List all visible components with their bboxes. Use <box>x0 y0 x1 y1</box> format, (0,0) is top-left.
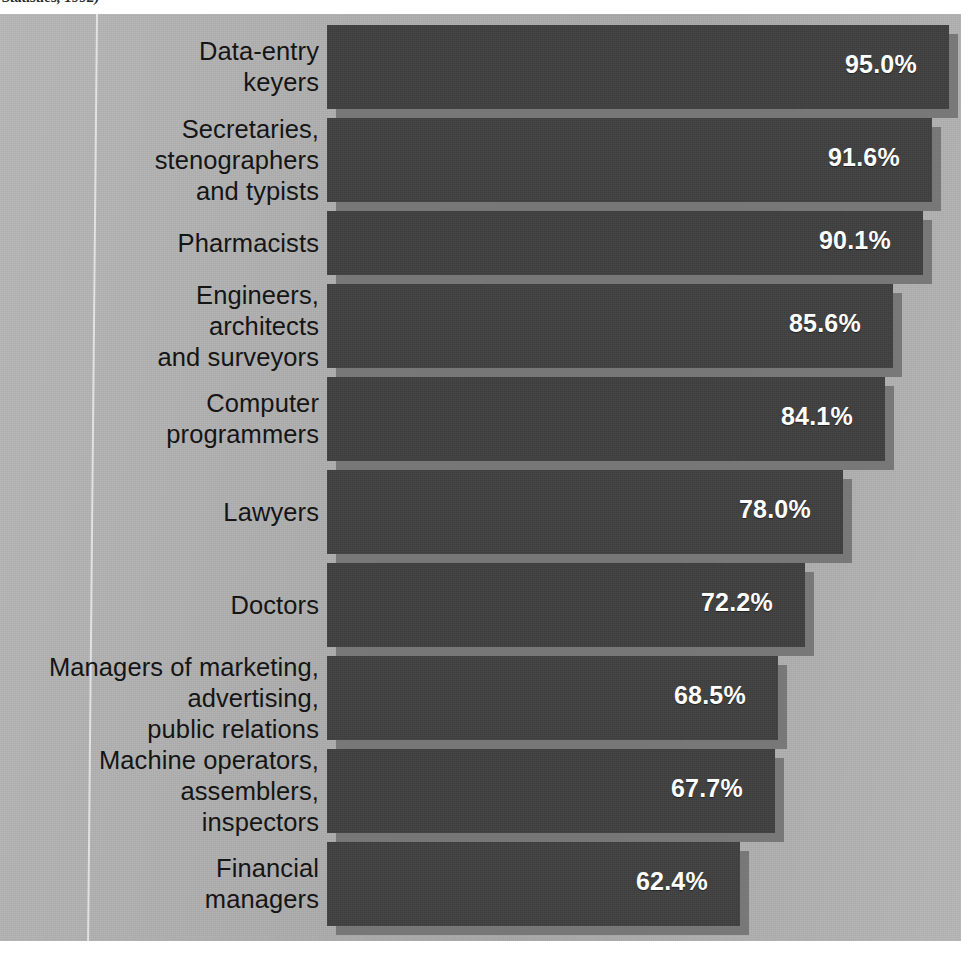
bar-value-label: 84.1% <box>781 402 853 431</box>
source-note-clip: Statistics, 1992) <box>0 0 961 12</box>
bar-category-label: Computer programmers <box>0 388 319 450</box>
bar-row: Engineers, architects and surveyors85.6% <box>0 284 961 368</box>
bar-category-label: Financial managers <box>0 853 319 915</box>
bar-value-label: 95.0% <box>845 50 917 79</box>
bar-category-label: Doctors <box>0 590 319 621</box>
bar-chart-panel: Data-entry keyers95.0%Secretaries, steno… <box>0 14 961 941</box>
bar-category-label: Pharmacists <box>0 228 319 259</box>
bar-category-label: Lawyers <box>0 497 319 528</box>
bar-row: Lawyers78.0% <box>0 470 961 554</box>
bar-chart-plot-area: Data-entry keyers95.0%Secretaries, steno… <box>0 14 961 941</box>
bar-value-label: 91.6% <box>828 143 900 172</box>
bar-row: Data-entry keyers95.0% <box>0 25 961 109</box>
bar-value-label: 72.2% <box>701 588 773 617</box>
bar-row: Computer programmers84.1% <box>0 377 961 461</box>
bar-value-label: 62.4% <box>636 867 708 896</box>
bar-value-label: 78.0% <box>739 495 811 524</box>
bar-category-label: Engineers, architects and surveyors <box>0 280 319 373</box>
bar-value-label: 85.6% <box>789 309 861 338</box>
bar-row: Pharmacists90.1% <box>0 211 961 275</box>
bar-category-label: Secretaries, stenographers and typists <box>0 114 319 207</box>
bar-row: Managers of marketing, advertising, publ… <box>0 656 961 740</box>
bar-value-label: 90.1% <box>819 226 891 255</box>
bar-value-label: 68.5% <box>674 681 746 710</box>
bar-category-label: Machine operators, assemblers, inspector… <box>0 745 319 838</box>
bar-row: Secretaries, stenographers and typists91… <box>0 118 961 202</box>
bar-category-label: Managers of marketing, advertising, publ… <box>0 652 319 745</box>
bar-category-label: Data-entry keyers <box>0 36 319 98</box>
bar-value-label: 67.7% <box>671 774 743 803</box>
source-note: Statistics, 1992) <box>2 0 100 6</box>
bar-row: Doctors72.2% <box>0 563 961 647</box>
bar-row: Machine operators, assemblers, inspector… <box>0 749 961 833</box>
bar-row: Financial managers62.4% <box>0 842 961 926</box>
